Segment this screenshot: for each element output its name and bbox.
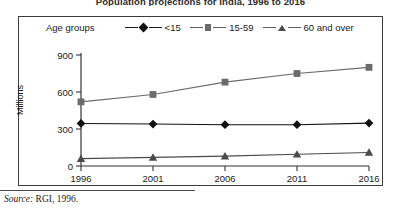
square-marker-icon [366,64,373,71]
chart-title: Population projections for India, 1996 t… [0,0,401,6]
source-note: Source: RGI, 1996. [4,194,78,204]
square-marker-icon [78,98,85,105]
plot-area: Millions 900 600 300 0 [19,17,382,185]
diamond-marker-icon [293,120,302,129]
source-text: RGI, 1996. [36,194,79,204]
plot-canvas [19,17,384,187]
series--15 [77,119,374,129]
x-tick-1996: 1996 [59,173,103,184]
square-marker-icon [294,70,301,77]
x-tick-2001: 2001 [131,173,175,184]
source-label: Source: [4,194,33,204]
square-marker-icon [222,79,229,86]
diamond-marker-icon [221,120,230,129]
series-15-59 [78,64,373,105]
x-tick-2011: 2011 [275,173,319,184]
x-tick-2006: 2006 [203,173,247,184]
series-layer [77,64,374,162]
series-60-and-over [77,148,373,162]
chart-frame: Age groups <15 15-59 [18,16,383,186]
diamond-marker-icon [77,119,86,128]
diamond-marker-icon [365,119,374,128]
x-tick-2016: 2016 [347,173,391,184]
square-marker-icon [150,91,157,98]
source-divider [0,190,195,191]
diamond-marker-icon [149,120,158,129]
chart-figure: Population projections for India, 1996 t… [0,0,401,212]
